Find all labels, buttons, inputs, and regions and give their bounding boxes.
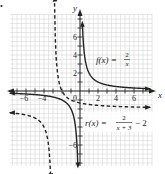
chart-figure: • x y 0 −6−4246 642−6 f(x) = 2 x: [0, 0, 165, 174]
x-tick-label: 6: [132, 94, 136, 103]
x-tick-label: 2: [96, 94, 100, 103]
problem-marker: •: [0, 2, 3, 11]
y-tick-label: 6: [73, 33, 77, 42]
x-axis-label: x: [157, 90, 162, 100]
x-axis: [7, 89, 156, 94]
y-tick-label: −6: [68, 141, 77, 150]
r-label: r(x) = 2 x + 3 − 2: [84, 112, 156, 132]
r-curve-left-branch: [10, 113, 51, 174]
y-axis-label: y: [72, 3, 77, 13]
x-tick-label: −6: [20, 94, 29, 103]
r-label-numerator: 2: [122, 114, 126, 122]
y-axis-arrow-icon: [78, 9, 83, 16]
r-label-constant: − 2: [135, 118, 147, 128]
x-tick-label: 4: [114, 94, 118, 103]
curve-arrow-icon: [9, 110, 15, 115]
curve-arrow-icon: [52, 0, 57, 2]
curve-arrow-icon: [76, 163, 81, 169]
r-label-denominator: x + 3: [116, 124, 132, 132]
y-tick-label: 4: [73, 51, 77, 60]
y-tick-label: 2: [73, 69, 77, 78]
f-label: f(x) = 2 x: [96, 51, 130, 68]
f-label-lhs: f(x) =: [96, 55, 117, 65]
curve-arrow-icon: [48, 173, 53, 174]
r-label-lhs: r(x) =: [85, 118, 107, 128]
f-label-numerator: 2: [125, 51, 129, 59]
